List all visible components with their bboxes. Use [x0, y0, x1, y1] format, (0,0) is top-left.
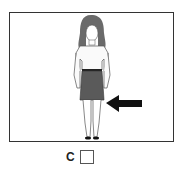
skirt: [80, 71, 104, 100]
illustration-frame: [9, 12, 174, 142]
arrow-left-icon: [106, 95, 142, 112]
option-label: C: [66, 150, 75, 164]
blouse: [76, 46, 108, 71]
face: [86, 25, 98, 41]
answer-option: C: [66, 150, 94, 164]
woman-figure-illustration: [10, 13, 175, 143]
option-checkbox[interactable]: [80, 150, 94, 164]
